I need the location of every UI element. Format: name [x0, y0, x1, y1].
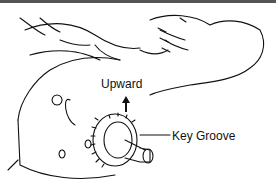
left-hand-fingers: [20, 18, 60, 35]
key-groove-label: Key Groove: [172, 129, 235, 143]
housing-edge: [8, 160, 18, 170]
boss-3: [59, 150, 65, 158]
boss-1: [52, 95, 62, 105]
upward-label: Upward: [101, 77, 142, 91]
gear-outer: [93, 114, 137, 166]
housing-lower: [18, 120, 115, 178]
upward-arrow-icon: [122, 96, 130, 112]
illustration: [0, 0, 276, 189]
boss-2: [65, 99, 75, 125]
diagram-canvas: Upward Key Groove: [0, 0, 276, 189]
right-hand: [140, 15, 264, 95]
gear-inner: [104, 122, 132, 158]
boss-4: [85, 140, 91, 148]
left-hand: [25, 24, 140, 60]
shaft-end: [143, 149, 153, 163]
